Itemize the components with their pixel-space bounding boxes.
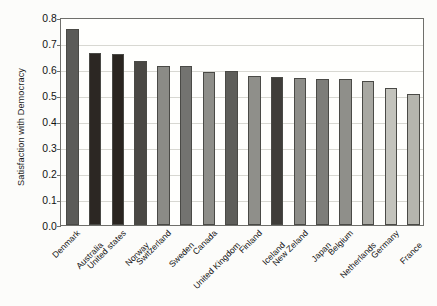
bar-series (61, 19, 423, 225)
bar (66, 29, 79, 225)
bar (203, 72, 216, 225)
y-tick-label: 0.4 (23, 117, 57, 128)
bar (248, 76, 261, 225)
x-tick-label: Finland (237, 228, 264, 255)
y-tick-label: 0.1 (23, 195, 57, 206)
x-tick-label: France (397, 240, 423, 266)
x-tick-label: Canada (190, 228, 219, 257)
y-tick-label: 0.3 (23, 143, 57, 154)
bar (112, 54, 125, 225)
x-tick-label-text: Sweden (167, 240, 196, 269)
bar (294, 78, 307, 225)
bar (271, 77, 284, 225)
x-tick-label: Belgium (326, 228, 355, 257)
y-tick-label: 0.0 (23, 221, 57, 232)
x-tick-label: Sweden (167, 240, 196, 269)
x-tick-label-text: France (397, 240, 423, 266)
x-tick-label-text: Canada (190, 228, 219, 257)
y-tick-label: 0.6 (23, 65, 57, 76)
bar (385, 88, 398, 225)
x-axis-tick-labels: DenmarkAustraliaUnited statesNorwaySwitz… (60, 226, 424, 306)
bar (89, 53, 102, 225)
x-tick-label-text: Finland (237, 228, 264, 255)
chart-figure: Satisfaction with Democracy 0.00.10.20.3… (0, 0, 437, 306)
y-tick-label: 0.7 (23, 39, 57, 50)
bar (339, 79, 352, 225)
bar (180, 66, 193, 225)
y-tick-label: 0.5 (23, 91, 57, 102)
bar (407, 94, 420, 225)
bar (157, 66, 170, 225)
bar (134, 61, 147, 225)
y-tick-label: 0.2 (23, 169, 57, 180)
y-tick-label: 0.8 (23, 13, 57, 24)
y-axis-tick-labels: 0.00.10.20.30.40.50.60.70.8 (19, 0, 57, 306)
bar (362, 81, 375, 225)
bar (225, 71, 238, 225)
plot-area (60, 18, 424, 226)
bar (316, 79, 329, 225)
x-tick-label-text: Belgium (326, 228, 355, 257)
